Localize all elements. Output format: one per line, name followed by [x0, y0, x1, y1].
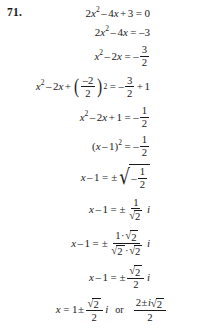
equals-sign: =: [130, 27, 136, 38]
parenthesized-fraction: ( –2 2 ): [73, 75, 104, 99]
term: 3: [128, 8, 134, 19]
denominator: 2: [140, 57, 149, 68]
radicand: 2: [134, 265, 142, 277]
term: 0: [145, 8, 151, 19]
radicand: 2: [130, 230, 138, 242]
plus-minus-sign: ±: [111, 172, 117, 183]
square-root: √ 2: [129, 210, 142, 222]
numerator: 3: [140, 44, 149, 56]
term: 1: [94, 172, 100, 183]
equals-sign: =: [124, 141, 130, 152]
fraction-root-two-over-two: √2 2: [127, 265, 144, 291]
term: x: [89, 204, 94, 215]
denominator: 2: [83, 87, 92, 98]
radicand: – 1 2: [129, 164, 150, 190]
radical-sign: √: [125, 230, 131, 243]
term: 2: [136, 296, 141, 308]
operator-minus: –: [95, 272, 101, 283]
fraction-one-over-root-two: 1 √ 2: [127, 197, 144, 223]
denominator: 2: [140, 118, 149, 129]
denominator: √2·√2: [109, 244, 144, 257]
term: 1: [115, 229, 120, 241]
term: 4x: [117, 27, 127, 38]
negative-sign: –: [133, 112, 139, 123]
equation-line-2: 2x2 – 4x = –3: [0, 23, 223, 42]
radical-sign: √: [151, 297, 157, 310]
operator-minus: –: [78, 238, 84, 249]
plus-minus-sign: ±: [78, 304, 84, 315]
or-connector: or: [115, 305, 123, 315]
operator-minus: –: [110, 27, 116, 38]
denominator: 2: [131, 279, 140, 290]
radicand: 2: [134, 210, 142, 222]
final-answer-form-a: x = 1 ± √2 2 i: [56, 297, 109, 323]
operator-minus: –: [105, 51, 111, 62]
square-root: √2: [129, 245, 142, 257]
operator-plus: +: [65, 81, 71, 92]
plus-minus-sign: ±: [120, 272, 126, 283]
square-root: √2: [151, 298, 164, 310]
radical-sign: √: [119, 169, 130, 185]
term: 2x: [112, 51, 122, 62]
term: 1: [85, 238, 91, 249]
radical-sign: √: [88, 297, 94, 310]
numerator: 3: [125, 75, 134, 87]
binomial-square: (x–1)2: [92, 141, 122, 152]
fraction-three-halves: 3 2: [140, 44, 149, 68]
radicand: 2: [134, 245, 142, 257]
radical-sign: √: [129, 245, 135, 258]
equation-line-7: x – 1 = ± √ – 1 2: [0, 161, 223, 193]
fraction-three-halves: 3 2: [125, 75, 134, 99]
radical-sign: √: [129, 210, 135, 223]
equals-sign: =: [110, 81, 116, 92]
fraction-one-half: 1 2: [140, 134, 149, 158]
equals-sign: =: [63, 304, 69, 315]
fraction-root-two-over-two: √2 2: [86, 297, 103, 323]
operator-minus: –: [90, 112, 96, 123]
term: x2: [36, 81, 45, 92]
denominator: 2: [140, 147, 149, 158]
equation-line-4: x2 – 2x + ( –2 2 ) 2 = – 3 2 + 1: [0, 70, 223, 103]
term: x: [71, 238, 76, 249]
square-root: √2: [125, 230, 138, 242]
fraction-combined-answer: 2±i√2 2: [134, 297, 166, 323]
fraction-rationalized: 1·√2 √2·√2: [109, 230, 144, 257]
imaginary-unit: i: [105, 304, 108, 315]
denominator: 2: [138, 179, 147, 190]
numerator: 1: [131, 197, 140, 209]
numerator: –2: [81, 75, 96, 87]
square-root: √2: [88, 298, 101, 310]
equation-line-6: (x–1)2 = – 1 2: [0, 131, 223, 161]
term: –3: [139, 27, 150, 38]
term: x2: [94, 51, 103, 62]
equation-list: 2x2 – 4x + 3 = 0 2x2 – 4x = –3 x2 – 2x =…: [0, 0, 223, 326]
term: 2x2: [95, 27, 109, 38]
term: x: [56, 304, 61, 315]
term: 1: [116, 112, 122, 123]
plus-minus-sign: ±: [102, 238, 108, 249]
term: x: [89, 272, 94, 283]
equation-line-9: x – 1 = ± 1·√2 √2·√2 i: [0, 226, 223, 261]
equals-sign: =: [93, 238, 99, 249]
radicand: 2: [156, 298, 164, 310]
square-root: √2: [111, 245, 124, 257]
term: 1: [72, 304, 78, 315]
paren-left: (: [74, 79, 79, 94]
term: 1: [145, 81, 151, 92]
numerator: 1: [138, 166, 147, 178]
plus-minus-sign: ±: [120, 204, 126, 215]
equation-line-3: x2 – 2x = – 3 2: [0, 42, 223, 70]
term: 2x: [97, 112, 107, 123]
imaginary-unit: i: [147, 238, 150, 249]
operator-minus: –: [46, 81, 52, 92]
term: 4x: [108, 8, 118, 19]
denominator: 2: [145, 311, 154, 322]
negative-sign: –: [118, 81, 124, 92]
term: x: [81, 172, 86, 183]
denominator: 2: [125, 87, 134, 98]
paren-right: ): [97, 79, 102, 94]
operator-plus: +: [137, 81, 143, 92]
square-root: √ – 1 2: [118, 164, 150, 190]
equals-sign: =: [110, 272, 116, 283]
term: 2x: [53, 81, 63, 92]
